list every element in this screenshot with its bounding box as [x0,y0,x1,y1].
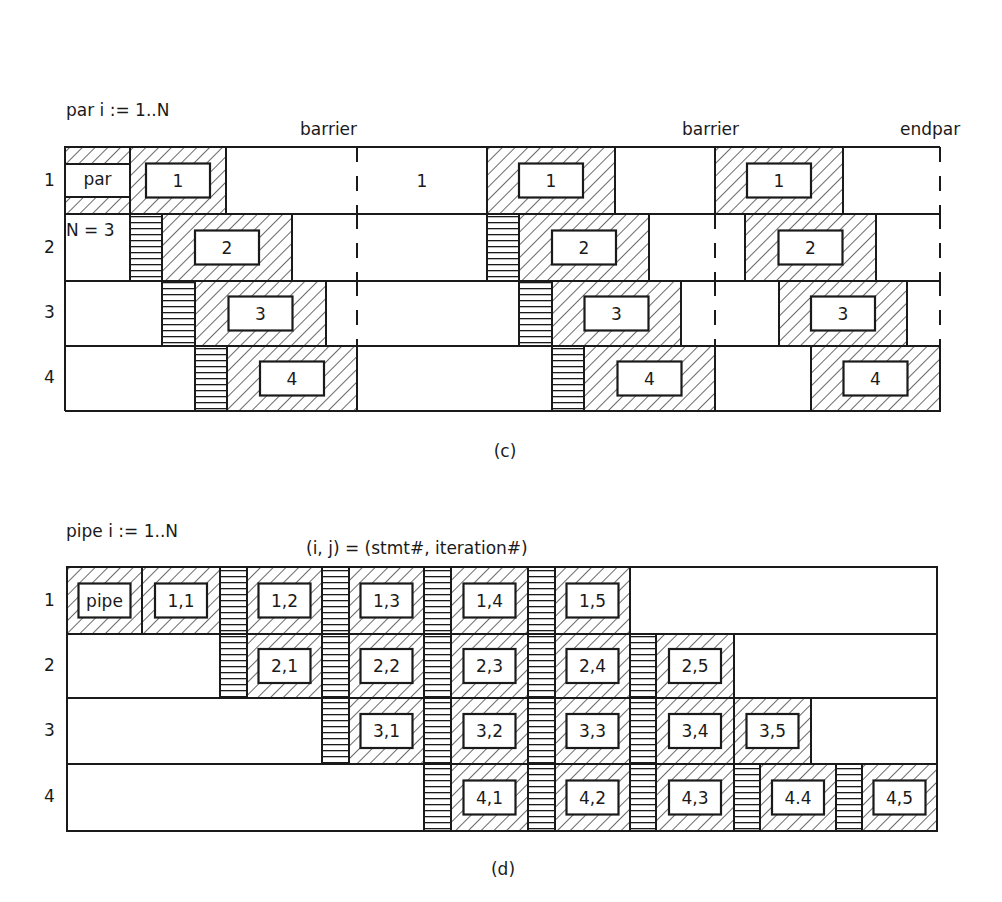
fig-d-cell-label: 1,3 [373,591,400,611]
fig-d-cell-label: 1,1 [167,591,194,611]
fig-c-stmt-block-label: 4 [644,369,655,389]
fig-c-sync-stripe [130,214,162,281]
fig-c-stmt-block-label: 4 [287,369,298,389]
fig-d-sync-stripe [630,698,656,764]
fig-c-stmt-block-label: 3 [838,304,849,324]
fig-d-sync-stripe [528,634,555,698]
fig-d-cell-label: 4.4 [784,788,811,808]
fig-d-sync-stripe [220,567,247,634]
fig-d-sync-stripe [734,764,760,831]
fig-c-sync-stripe [195,346,227,411]
fig-d-sync-stripe [424,764,451,831]
fig-d-cell-label: 3,4 [681,721,708,741]
fig-d-cell-label: 4,1 [476,788,503,808]
fig-c-stmt-block-label: 4 [870,369,881,389]
fig-d-sync-stripe [630,634,656,698]
fig-d-cell-label: pipe [86,591,123,611]
fig-c-stmt-block-label: 2 [579,238,590,258]
fig-d-cell-label: 3,3 [579,721,606,741]
fig-d-cell-label: 2,2 [373,656,400,676]
fig-d-pipe-diagram: pipe1,11,21,31,41,52,12,22,32,42,53,13,2… [67,567,937,831]
fig-d-sync-stripe [220,634,247,698]
fig-d-sync-stripe [424,567,451,634]
fig-d-sync-stripe [322,698,349,764]
fig-d-sync-stripe [836,764,862,831]
fig-d-cell-label: 4,3 [681,788,708,808]
fig-c-idle-label: 1 [417,171,428,191]
fig-d-cell-label: 2,1 [271,656,298,676]
fig-c-stmt-block-label: 3 [611,304,622,324]
fig-c-sync-stripe [552,346,584,411]
fig-d-sync-stripe [322,634,349,698]
fig-d-cell-label: 3,2 [476,721,503,741]
fig-d-sync-stripe [424,634,451,698]
fig-d-cell-label: 4,5 [886,788,913,808]
fig-d-sync-stripe [528,764,555,831]
fig-d-cell-label: 2,4 [579,656,606,676]
fig-c-stmt-block-label: 2 [222,238,233,258]
fig-c-sync-stripe [519,281,552,346]
fig-d-cell-label: 3,1 [373,721,400,741]
fig-c-stmt-block-label: 3 [255,304,266,324]
fig-c-par-label: par [83,169,111,189]
fig-d-sync-stripe [630,764,656,831]
fig-d-cell-label: 1,2 [271,591,298,611]
fig-c-stmt-block-label: 1 [546,171,557,191]
fig-c-stmt-block-label: 2 [805,238,816,258]
fig-d-cell-label: 1,4 [476,591,503,611]
fig-d-sync-stripe [424,698,451,764]
fig-c-stmt-block-label: 1 [173,171,184,191]
fig-c-sync-stripe [162,281,195,346]
fig-d-sync-stripe [322,567,349,634]
fig-d-cell-label: 1,5 [579,591,606,611]
fig-d-sync-stripe [528,567,555,634]
fig-c-sync-stripe [487,214,519,281]
fig-d-cell-label: 4,2 [579,788,606,808]
fig-c-par-diagram: par1234123412341 [65,147,940,411]
timing-diagrams: par1234123412341 pipe1,11,21,31,41,52,12… [0,0,1002,902]
fig-d-sync-stripe [528,698,555,764]
fig-c-stmt-block-label: 1 [774,171,785,191]
fig-d-cell-label: 2,3 [476,656,503,676]
fig-d-cell-label: 3,5 [759,721,786,741]
fig-d-cell-label: 2,5 [681,656,708,676]
